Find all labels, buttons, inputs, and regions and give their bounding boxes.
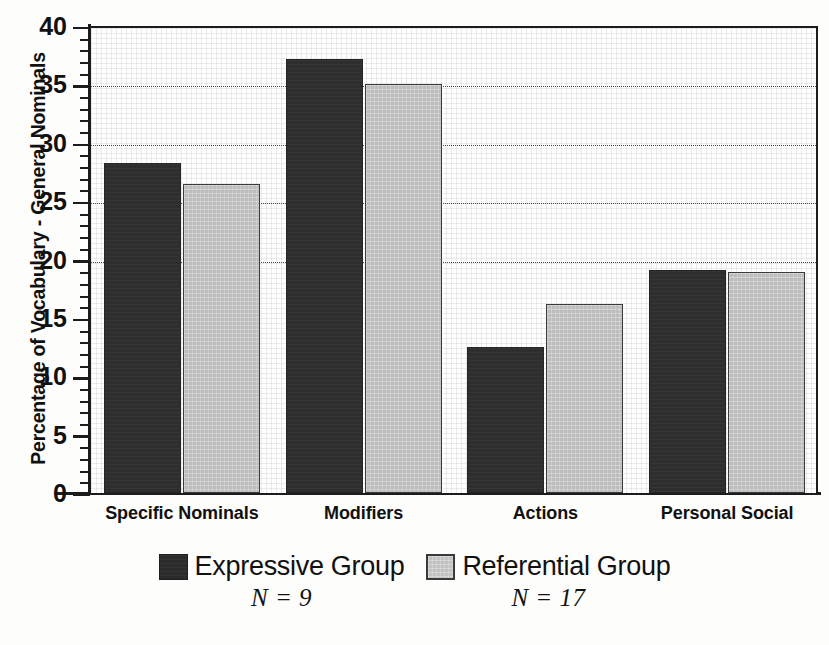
y-tick-minor xyxy=(80,97,90,99)
y-tick-minor xyxy=(80,401,90,403)
chart-figure: Percentage of Vocabulary - General Nomin… xyxy=(0,0,829,645)
y-tick-major xyxy=(73,202,90,205)
y-tick-label: 10 xyxy=(39,364,67,389)
y-tick-minor xyxy=(80,62,90,64)
bar-expressive-group-modifiers xyxy=(286,59,363,493)
legend-entry-expressive-group[interactable]: Expressive GroupN = 9 xyxy=(159,551,405,612)
y-tick-major xyxy=(73,85,90,88)
bar-expressive-group-specific-nominals xyxy=(104,163,181,493)
gridline xyxy=(91,145,816,146)
y-tick-minor xyxy=(80,307,90,309)
bar-expressive-group-actions xyxy=(467,347,544,493)
y-tick-minor xyxy=(80,471,90,473)
y-tick-minor xyxy=(80,155,90,157)
bar-referential-group-specific-nominals xyxy=(183,184,260,493)
y-tick-minor xyxy=(80,296,90,298)
y-tick-major xyxy=(73,377,90,380)
y-tick-major xyxy=(73,27,90,30)
y-tick-label: 20 xyxy=(39,247,67,272)
legend-label: Referential Group xyxy=(462,551,670,582)
y-tick-label: 25 xyxy=(39,189,67,214)
y-tick-label: 0 xyxy=(53,481,67,506)
y-tick-major xyxy=(73,260,90,263)
y-tick-minor xyxy=(80,179,90,181)
y-tick-minor xyxy=(80,132,90,134)
y-tick-minor xyxy=(80,109,90,111)
y-tick-minor xyxy=(80,120,90,122)
bar-referential-group-actions xyxy=(546,304,623,493)
y-tick-major xyxy=(73,435,90,438)
y-tick-minor xyxy=(80,249,90,251)
legend-row: Referential Group xyxy=(426,551,670,582)
y-tick-minor xyxy=(80,272,90,274)
bar-referential-group-personal-social xyxy=(728,272,805,493)
legend-sample-size: N = 17 xyxy=(511,584,585,612)
y-tick-minor xyxy=(80,39,90,41)
y-tick-minor xyxy=(80,366,90,368)
y-tick-minor xyxy=(80,284,90,286)
y-tick-minor xyxy=(80,424,90,426)
y-tick-minor xyxy=(80,447,90,449)
category-label: Modifiers xyxy=(324,503,403,524)
category-label: Actions xyxy=(513,503,578,524)
category-label: Specific Nominals xyxy=(105,503,258,524)
legend: Expressive GroupN = 9Referential GroupN … xyxy=(0,551,829,612)
legend-swatch-icon xyxy=(159,554,188,580)
y-tick-minor xyxy=(80,167,90,169)
y-tick-label: 35 xyxy=(39,72,67,97)
legend-entry-referential-group[interactable]: Referential GroupN = 17 xyxy=(426,551,670,612)
y-tick-minor xyxy=(80,214,90,216)
y-tick-major xyxy=(73,319,90,322)
category-label: Personal Social xyxy=(661,503,794,524)
legend-row: Expressive Group xyxy=(159,551,405,582)
y-tick-minor xyxy=(80,342,90,344)
legend-swatch-icon xyxy=(426,554,455,580)
y-tick-minor xyxy=(80,412,90,414)
y-tick-label: 15 xyxy=(39,305,67,330)
plot-area xyxy=(91,26,818,493)
y-tick-minor xyxy=(80,50,90,52)
y-tick-major xyxy=(73,144,90,147)
y-tick-label: 30 xyxy=(39,130,67,155)
y-tick-minor xyxy=(80,225,90,227)
y-tick-label: 40 xyxy=(39,14,67,39)
y-tick-minor xyxy=(80,331,90,333)
legend-sample-size: N = 9 xyxy=(251,584,312,612)
bar-referential-group-modifiers xyxy=(365,84,442,493)
legend-label: Expressive Group xyxy=(195,551,405,582)
y-tick-label: 5 xyxy=(53,422,67,447)
y-tick-minor xyxy=(80,459,90,461)
bar-expressive-group-personal-social xyxy=(649,270,726,493)
y-tick-minor xyxy=(80,389,90,391)
gridline xyxy=(91,86,816,87)
y-tick-major xyxy=(73,494,90,497)
y-tick-minor xyxy=(80,74,90,76)
y-tick-minor xyxy=(80,190,90,192)
y-tick-minor xyxy=(80,482,90,484)
y-tick-minor xyxy=(80,354,90,356)
y-tick-minor xyxy=(80,237,90,239)
